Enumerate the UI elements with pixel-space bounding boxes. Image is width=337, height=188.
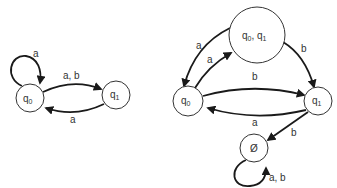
edge-q1-empty (268, 112, 308, 140)
state-q1-right: q1 (304, 87, 332, 115)
state-q0-left: q0 (16, 84, 44, 112)
edge-q0-q01 (195, 53, 231, 88)
edge-q1-q0-right (208, 108, 306, 116)
label-empty-empty: a, b (269, 172, 286, 183)
label-q01-q1: b (301, 43, 307, 54)
state-q0-right: q0 (173, 86, 203, 116)
state-diagram: a a, b a q0 q1 a a b b a (0, 0, 337, 188)
label-q0-q0-left: a (33, 48, 39, 59)
state-empty: Ø (240, 134, 268, 162)
edge-empty-empty (234, 160, 266, 186)
label-q01-q0: a (196, 40, 202, 51)
label-q0-q1-right: b (252, 71, 258, 82)
label-q1-empty: b (291, 127, 297, 138)
edge-q0-q0-left (11, 56, 41, 86)
edge-q01-q1 (283, 42, 314, 87)
edge-q1-q0-left (46, 104, 104, 112)
edge-q0-q1-right (203, 89, 304, 96)
label-q1-q0-left: a (70, 114, 76, 125)
svg-text:Ø: Ø (250, 143, 258, 154)
label-q1-q0-right: a (252, 117, 258, 128)
left-automaton: a a, b a q0 q1 (11, 48, 130, 125)
right-automaton: a a b b a b a, b q0, q1 q0 q1 (173, 7, 332, 186)
label-q0-q01: a (207, 54, 213, 65)
state-q1-left: q1 (102, 81, 130, 109)
edge-q0-q1-left (43, 84, 101, 92)
state-q0q1: q0, q1 (229, 7, 285, 63)
label-q0-q1-left: a, b (63, 70, 80, 81)
